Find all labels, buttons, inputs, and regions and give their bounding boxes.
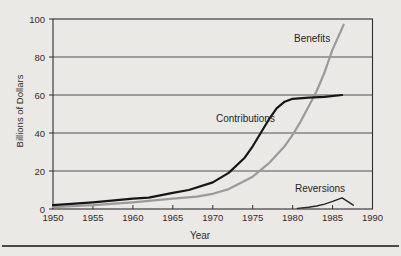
x-tick-label: 1985 [318,212,348,223]
x-tick-label: 1960 [118,212,148,223]
x-tick-label: 1975 [238,212,268,223]
y-tick-label: 0 [15,204,45,215]
x-tick-label: 1965 [158,212,188,223]
y-tick-label: 40 [15,128,45,139]
x-tick-label: 1955 [78,212,108,223]
x-axis-title: Year [170,230,230,241]
series-line-benefits [53,25,344,207]
series-label-contributions: Contributions [216,113,276,124]
x-tick-label: 1990 [358,212,388,223]
bottom-rule [2,245,399,247]
y-axis-title: Billions of Dollars [14,51,26,171]
y-tick-label: 60 [15,90,45,101]
y-tick-label: 100 [15,14,45,25]
plot-frame [53,19,373,209]
y-tick-label: 20 [15,166,45,177]
x-tick-label: 1980 [278,212,308,223]
y-tick-label: 80 [15,52,45,63]
series-line-reversions [297,198,353,209]
x-tick-label: 1970 [198,212,228,223]
series-label-benefits: Benefits [294,33,334,44]
series-label-reversions: Reversions [295,183,350,194]
